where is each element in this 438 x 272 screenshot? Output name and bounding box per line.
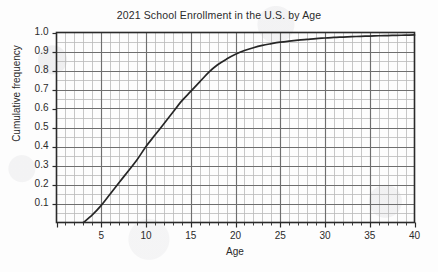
- x-tick-label: 5: [88, 230, 114, 241]
- x-tick-label: 40: [402, 230, 428, 241]
- chart-figure: 2021 School Enrollment in the U.S. by Ag…: [0, 0, 438, 272]
- y-tick-label: 0.5: [19, 121, 49, 132]
- y-tick-label: 0.4: [19, 140, 49, 151]
- y-tick-label: 0.2: [19, 178, 49, 189]
- y-tick-label: 0.6: [19, 102, 49, 113]
- x-tick-label: 10: [133, 230, 159, 241]
- y-tick-label: 0.1: [19, 197, 49, 208]
- x-tick-label: 25: [267, 230, 293, 241]
- y-tick-label: 0.9: [19, 45, 49, 56]
- x-tick-label: 30: [312, 230, 338, 241]
- y-tick-label: 0.7: [19, 83, 49, 94]
- y-tick-label: 1.0: [19, 26, 49, 37]
- x-tick-label: 35: [357, 230, 383, 241]
- x-tick-label: 20: [223, 230, 249, 241]
- x-tick-label: 15: [178, 230, 204, 241]
- y-tick-label: 0.3: [19, 159, 49, 170]
- y-tick-label: 0.8: [19, 64, 49, 75]
